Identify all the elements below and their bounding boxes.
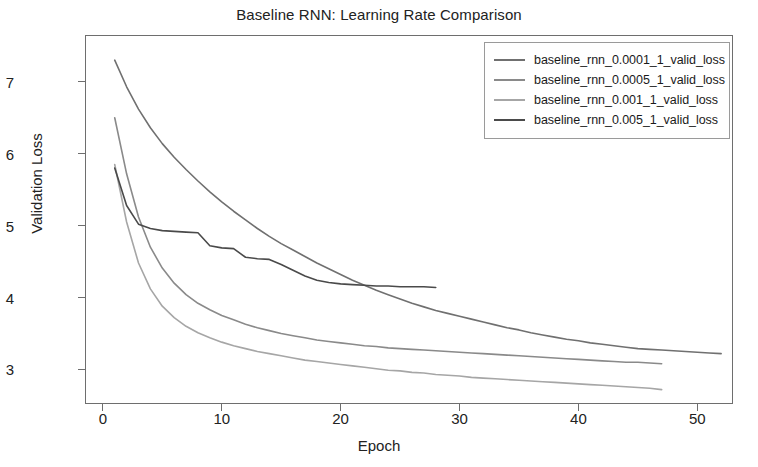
x-tick-label: 30 (451, 410, 468, 427)
series-line-1 (115, 118, 662, 364)
legend-item[interactable]: baseline_rnn_0.001_1_valid_loss (494, 90, 720, 110)
legend-label: baseline_rnn_0.0005_1_valid_loss (534, 73, 725, 87)
x-tick-label: 20 (332, 410, 349, 427)
y-tick-label: 4 (6, 289, 14, 306)
x-axis-label: Epoch (0, 437, 758, 454)
y-tick-mark (78, 369, 85, 370)
chart-legend: baseline_rnn_0.0001_1_valid_lossbaseline… (484, 42, 730, 139)
x-tick-mark (221, 404, 222, 411)
y-tick-label: 6 (6, 145, 14, 162)
legend-item[interactable]: baseline_rnn_0.005_1_valid_loss (494, 110, 720, 130)
chart-title: Baseline RNN: Learning Rate Comparison (0, 6, 758, 23)
y-tick-label: 3 (6, 361, 14, 378)
legend-label: baseline_rnn_0.001_1_valid_loss (534, 93, 718, 107)
x-tick-label: 40 (570, 410, 587, 427)
x-tick-label: 10 (213, 410, 230, 427)
y-axis-label: Validation Loss (28, 74, 45, 294)
legend-line-swatch (494, 79, 525, 81)
x-tick-mark (697, 404, 698, 411)
x-tick-mark (102, 404, 103, 411)
x-tick-label: 50 (689, 410, 706, 427)
legend-line-swatch (494, 99, 525, 101)
y-tick-label: 5 (6, 217, 14, 234)
legend-line-swatch (494, 59, 525, 61)
y-tick-mark (78, 153, 85, 154)
legend-label: baseline_rnn_0.005_1_valid_loss (534, 113, 718, 127)
chart-figure: Baseline RNN: Learning Rate Comparison V… (0, 0, 758, 467)
y-tick-mark (78, 225, 85, 226)
legend-label: baseline_rnn_0.0001_1_valid_loss (534, 53, 725, 67)
x-tick-mark (340, 404, 341, 411)
y-tick-label: 7 (6, 73, 14, 90)
legend-item[interactable]: baseline_rnn_0.0005_1_valid_loss (494, 70, 720, 90)
legend-line-swatch (494, 119, 525, 121)
series-line-2 (115, 164, 662, 389)
y-tick-mark (78, 81, 85, 82)
x-tick-mark (578, 404, 579, 411)
y-tick-mark (78, 297, 85, 298)
x-tick-mark (459, 404, 460, 411)
x-tick-label: 0 (99, 410, 107, 427)
legend-item[interactable]: baseline_rnn_0.0001_1_valid_loss (494, 50, 720, 70)
